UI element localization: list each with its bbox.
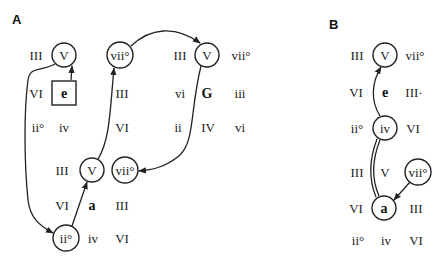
key-label: e bbox=[382, 85, 388, 100]
chord-label: vii° bbox=[111, 48, 130, 63]
chord-label: ii° bbox=[32, 120, 44, 135]
chord-label: VI bbox=[29, 86, 43, 101]
arrow-icon bbox=[139, 66, 201, 171]
arrow-icon bbox=[71, 66, 72, 80]
grid-e-region: III V vii° VI e III ii° iv VI bbox=[29, 42, 133, 135]
chord-label: iv bbox=[380, 121, 391, 136]
arrow-icon bbox=[394, 182, 410, 200]
chord-label: III· bbox=[405, 85, 422, 100]
chord-label: VI bbox=[406, 121, 420, 136]
chord-label: V bbox=[380, 48, 390, 63]
chord-label: ii bbox=[174, 120, 182, 135]
chord-label: VI bbox=[55, 198, 69, 213]
grid-b-a-region: III V vii° VI a III ii° iv VI bbox=[349, 159, 431, 248]
chord-label: iv bbox=[381, 233, 392, 248]
tonal-region-diagram: A III V vii° VI e III ii° iv VI III V vi… bbox=[0, 0, 446, 261]
chord-label: ii° bbox=[60, 231, 72, 246]
panel-label-b: B bbox=[329, 17, 338, 32]
chord-label: vii° bbox=[406, 48, 425, 63]
chord-label: III bbox=[351, 48, 364, 63]
arrow-icon bbox=[373, 67, 381, 116]
grid-g-region: III V vii° vi G iii ii IV vi bbox=[174, 43, 251, 135]
chord-label: III bbox=[116, 198, 129, 213]
arrow-icon bbox=[131, 31, 200, 46]
chord-label: VI bbox=[349, 201, 363, 216]
chord-label: III bbox=[410, 201, 423, 216]
key-label: G bbox=[202, 86, 213, 101]
grid-b-e-region: III V vii° VI e III· ii° iv VI bbox=[349, 43, 424, 140]
arrow-icon bbox=[98, 68, 114, 159]
chord-label: ii° bbox=[352, 233, 364, 248]
chord-label: vii° bbox=[409, 165, 428, 180]
chord-label: iv bbox=[59, 120, 70, 135]
key-label: a bbox=[89, 198, 96, 213]
chord-label: V bbox=[202, 48, 212, 63]
chord-label: VI bbox=[409, 233, 423, 248]
chord-label: V bbox=[59, 48, 69, 63]
chord-label: vi bbox=[175, 86, 186, 101]
chord-label: vii° bbox=[116, 163, 135, 178]
chord-label: vii° bbox=[232, 48, 251, 63]
chord-label: III bbox=[174, 48, 187, 63]
chord-label: V bbox=[380, 165, 390, 180]
chord-label: III bbox=[30, 48, 43, 63]
chord-label: VI bbox=[349, 85, 363, 100]
panel-label-a: A bbox=[12, 12, 22, 27]
chord-label: III bbox=[56, 163, 69, 178]
chord-label: vi bbox=[235, 120, 246, 135]
chord-label: III bbox=[116, 86, 129, 101]
chord-label: iii bbox=[235, 86, 246, 101]
chord-label: ii° bbox=[351, 121, 363, 136]
chord-label: VI bbox=[115, 231, 129, 246]
chord-label: III bbox=[351, 165, 364, 180]
key-label: a bbox=[381, 201, 388, 216]
panel-b-arrows bbox=[371, 67, 410, 200]
grid-a-region: III V vii° VI a III ii° iv VI bbox=[53, 157, 138, 251]
chord-label: IV bbox=[201, 120, 215, 135]
arrow-icon bbox=[72, 182, 87, 226]
double-line bbox=[374, 140, 380, 196]
chord-label: VI bbox=[115, 120, 129, 135]
key-label: e bbox=[61, 86, 67, 101]
chord-label: V bbox=[87, 163, 97, 178]
chord-label: iv bbox=[88, 231, 99, 246]
